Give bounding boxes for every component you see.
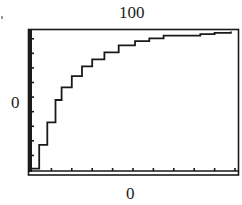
plot-frame [29,30,239,176]
graph-window [0,0,242,205]
data-curve [31,31,231,168]
